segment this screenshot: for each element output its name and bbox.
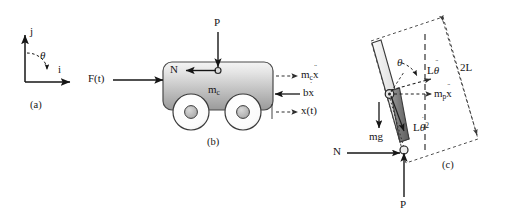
tangential-angle-dots: ¨ [435, 60, 438, 68]
length-dimension-label: 2L [460, 62, 472, 73]
panel-c-caption: (c) [442, 160, 454, 171]
angle-theta-label-a: θ [40, 50, 45, 61]
axis-i-label: i [58, 64, 61, 75]
centripetal-angle-dots: ˙ [421, 117, 424, 125]
cart-wheel-left [173, 94, 209, 130]
displacement-label: x(t) [301, 105, 317, 116]
damping-velocity-symbol: ˙x [309, 87, 315, 98]
cart-mass-label: mc [208, 84, 220, 97]
damping-velocity-dots: ˙ [310, 82, 313, 90]
centripetal-length-symbol: L [413, 121, 420, 133]
cart-mass-subscript: c [217, 88, 220, 97]
tangential-angle-symbol: ¨θ [434, 65, 439, 76]
panel-a-coordinate-frame [25, 35, 70, 82]
panel-c-pendulum [347, 17, 478, 197]
length-dimension-line [443, 21, 477, 135]
applied-force-label: F(t) [88, 73, 105, 84]
damping-force-label: b˙x [303, 87, 314, 98]
centripetal-exponent: 2 [425, 121, 429, 130]
normal-force-N-label-b: N [170, 64, 178, 75]
figure-canvas [0, 0, 508, 221]
panel-a-caption: (a) [30, 100, 42, 111]
angle-theta-arc [402, 63, 417, 76]
inertia-accel-dots: ¨ [314, 64, 317, 72]
panel-b-cart [113, 32, 300, 130]
pivot-force-P-label-b: P [214, 17, 220, 28]
pendulum-accel-dots: ¨ [448, 83, 451, 91]
pendulum-base-pivot [400, 146, 408, 154]
weight-mg-label: mg [369, 131, 383, 142]
normal-force-N-label-c: N [333, 146, 341, 157]
panel-b-caption: (b) [207, 137, 219, 148]
angle-theta-label-c: θ [397, 57, 402, 68]
pendulum-inertia-label: mp¨x [434, 88, 452, 101]
centripetal-angle-symbol: ˙θ [420, 122, 425, 133]
cart-wheel-right [225, 94, 261, 130]
pivot-force-P-label-c: P [400, 199, 406, 210]
centripetal-acceleration-label: L˙θ2 [413, 122, 429, 133]
inertia-mass-symbol: m [301, 68, 310, 80]
figure-cart-pendulum-fbd: j i θ (a) F(t) P N mc mc¨x b˙x x(t) (b) … [0, 0, 508, 221]
axis-j-label: j [30, 26, 33, 37]
tangential-acceleration-label: L¨θ [427, 65, 439, 76]
pendulum-accel-symbol: ¨x [446, 88, 452, 99]
inertia-force-label: mc¨x [301, 69, 318, 82]
cart-mass-symbol: m [208, 83, 217, 95]
center-of-mass-marker [385, 90, 394, 99]
tangential-length-symbol: L [427, 64, 434, 76]
inertia-accel-symbol: ¨x [313, 69, 319, 80]
pendulum-mass-symbol: m [434, 87, 443, 99]
